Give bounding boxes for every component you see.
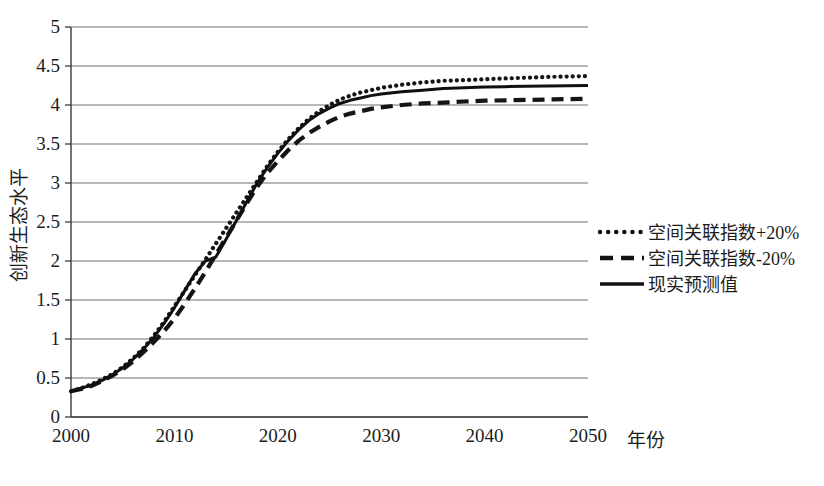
y-tick-label-5: 5	[51, 16, 61, 37]
legend-item-0[interactable]: 空间关联指数+20%	[600, 223, 799, 243]
chart-figure: 00.511.522.533.544.55 200020102020203020…	[0, 0, 824, 486]
y-tick-label-1.5: 1.5	[36, 289, 60, 310]
x-tick-label-2020: 2020	[259, 425, 297, 446]
series-line-2	[71, 86, 588, 392]
x-tick-label-2050: 2050	[569, 425, 607, 446]
y-tick-label-3: 3	[51, 172, 61, 193]
y-tick-label-0.5: 0.5	[36, 367, 60, 388]
legend-label-1: 空间关联指数-20%	[648, 249, 795, 269]
legend-item-1[interactable]: 空间关联指数-20%	[600, 249, 795, 269]
y-tick-label-4: 4	[51, 94, 61, 115]
legend-label-0: 空间关联指数+20%	[648, 223, 799, 243]
x-axis-title: 年份	[627, 430, 665, 451]
x-tick-label-2030: 2030	[362, 425, 400, 446]
x-tick-label-2040: 2040	[466, 425, 504, 446]
data-series-layer	[71, 76, 588, 391]
y-tick-label-2.5: 2.5	[36, 211, 60, 232]
x-axis-tick-labels: 200020102020203020402050	[52, 425, 607, 446]
y-tick-label-2: 2	[51, 250, 61, 271]
y-axis-tick-labels: 00.511.522.533.544.55	[36, 16, 71, 427]
series-line-1	[71, 99, 588, 392]
x-tick-label-2010: 2010	[155, 425, 193, 446]
y-tick-label-3.5: 3.5	[36, 133, 60, 154]
y-tick-label-1: 1	[51, 328, 61, 349]
y-axis-title: 创新生态水平	[9, 168, 30, 282]
chart-legend: 空间关联指数+20%空间关联指数-20%现实预测值	[600, 223, 799, 295]
y-tick-label-0: 0	[51, 406, 61, 427]
y-tick-label-4.5: 4.5	[36, 55, 60, 76]
line-chart: 00.511.522.533.544.55 200020102020203020…	[0, 0, 824, 486]
legend-label-2: 现实预测值	[648, 275, 738, 295]
legend-item-2[interactable]: 现实预测值	[600, 275, 738, 295]
x-tick-label-2000: 2000	[52, 425, 90, 446]
